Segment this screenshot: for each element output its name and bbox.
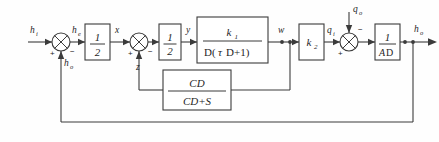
sum3-minus-sign: − <box>358 25 363 34</box>
label-w: w <box>278 25 285 35</box>
plant-denominator-prefix: D( <box>204 46 216 59</box>
sum2-plus-sign: + <box>128 49 133 58</box>
signal-label-qi: q i <box>327 25 335 37</box>
integrator-numerator: 1 <box>385 31 391 43</box>
arrow-into-gain1 <box>78 39 85 45</box>
qo-disturbance-input <box>346 12 352 33</box>
label-he-main: h <box>72 25 77 35</box>
label-ho-main: h <box>414 24 419 34</box>
sum-junction-3 <box>340 33 358 51</box>
signal-label-he: h e <box>72 25 81 37</box>
gain-half-2-numerator: 1 <box>167 31 173 43</box>
block-integrator: 1 A D <box>375 24 400 60</box>
sum3-plus-sign: + <box>338 49 343 58</box>
gain-half-1-denominator: 2 <box>95 46 101 58</box>
signal-label-ho-feedback: h o <box>64 58 74 70</box>
gain-half-2-denominator: 2 <box>167 45 173 57</box>
arrow-into-integrator <box>368 39 375 45</box>
arrow-into-k2 <box>292 39 299 45</box>
block-diagram-canvas: + − + − + − 1 2 1 2 k 1 D( τ <box>0 0 439 142</box>
signal-label-qo: q o <box>353 4 363 16</box>
feedback-numerator: CD <box>189 77 204 89</box>
sum-junction-1 <box>52 33 70 51</box>
label-he-subscript: e <box>78 30 81 37</box>
arrow-qo-into-sum3 <box>346 25 352 33</box>
block-gain-half-1: 1 2 <box>85 24 110 60</box>
label-y: y <box>185 25 191 35</box>
arrow-into-plant <box>190 39 197 45</box>
integrator-denominator-operator: D <box>386 47 393 58</box>
block-gain-k2: k 2 <box>299 24 324 60</box>
signal-label-hi: h i <box>30 25 38 37</box>
gain-half-1-numerator: 1 <box>95 31 101 43</box>
label-hi-main: h <box>30 25 35 35</box>
sum1-minus-sign: − <box>70 47 75 56</box>
block-gain-half-2: 1 2 <box>159 24 181 60</box>
label-qi-subscript: i <box>333 30 335 37</box>
signal-label-ho-output: h o <box>414 24 424 36</box>
label-qo-main: q <box>353 4 358 14</box>
sum2-minus-sign: − <box>148 47 153 56</box>
arrow-into-sum3 <box>333 39 340 45</box>
label-hi-subscript: i <box>36 30 38 37</box>
sum1-plus-sign: + <box>50 49 55 58</box>
arrow-into-gain2 <box>152 39 159 45</box>
label-x: x <box>114 25 120 35</box>
label-ho-subscript: o <box>420 29 424 36</box>
feedback-denominator: CD+S <box>183 95 212 107</box>
label-qo-subscript: o <box>359 9 363 16</box>
label-ho-fb-main: h <box>64 58 69 68</box>
label-z: z <box>135 62 140 72</box>
arrow-into-sum2 <box>123 39 130 45</box>
sum-junction-2 <box>130 33 148 51</box>
block-plant-k1: k 1 D( τ D+1) <box>197 17 268 63</box>
integrator-denominator-group: A D <box>378 47 393 58</box>
block-feedback-cd: CD CD+S <box>163 70 231 110</box>
label-qi-main: q <box>327 25 332 35</box>
label-ho-fb-subscript: o <box>70 63 74 70</box>
plant-numerator-subscript: 1 <box>235 33 239 41</box>
plant-denominator-suffix: D+1) <box>226 46 250 59</box>
arrow-output <box>428 38 437 45</box>
integrator-denominator-area: A <box>378 47 386 58</box>
arrow-into-sum1 <box>45 39 52 45</box>
gain-k2-subscript: 2 <box>314 43 318 51</box>
plant-denominator-group: D( τ D+1) <box>204 46 250 59</box>
arrow-z-into-sum2 <box>136 51 142 59</box>
